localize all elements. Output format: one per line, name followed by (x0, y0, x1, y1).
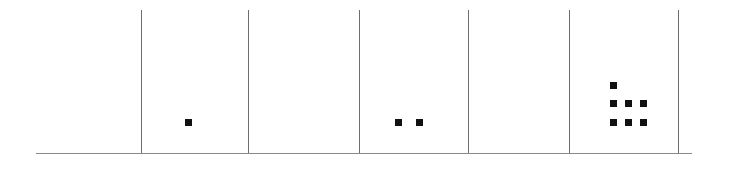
divider-line-4 (468, 10, 469, 153)
dot-mark (610, 82, 617, 89)
dot-mark (640, 119, 647, 126)
dot-mark (625, 119, 632, 126)
dot-mark (625, 100, 632, 107)
dot-mark (185, 119, 192, 126)
chart-canvas (0, 0, 739, 172)
divider-line-5 (569, 10, 570, 153)
x-axis-baseline (36, 153, 692, 154)
dot-mark (640, 100, 647, 107)
dot-mark (610, 119, 617, 126)
dot-mark (416, 119, 423, 126)
divider-line-2 (248, 10, 249, 153)
divider-line-1 (141, 10, 142, 153)
divider-line-3 (359, 10, 360, 153)
dot-mark (395, 119, 402, 126)
divider-line-6 (678, 10, 679, 153)
dot-mark (610, 100, 617, 107)
